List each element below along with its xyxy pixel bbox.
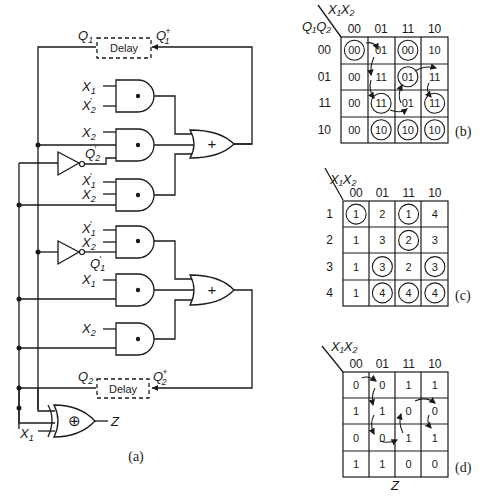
kmap-c-cell: 3 xyxy=(432,234,438,246)
and-gate-6: X2 xyxy=(19,300,194,355)
kmap-d-col-var: X₁X₂ xyxy=(330,339,357,354)
kmap-b-cell: 01 xyxy=(375,44,387,56)
kmap-b-cell: 00 xyxy=(402,44,414,56)
kmap-d-cell: 0 xyxy=(432,458,438,470)
kmap-c-cell: 2 xyxy=(379,208,385,220)
svg-text:X2′: X2′ xyxy=(81,96,96,115)
q2-label: Q2 xyxy=(78,369,93,386)
kmap-d-cell: 0 xyxy=(406,458,412,470)
inverter-q2 xyxy=(19,152,85,175)
svg-text:X1: X1 xyxy=(81,79,96,96)
kmap-c-cell: 3 xyxy=(379,234,385,246)
delay-2-label: Delay xyxy=(109,383,138,395)
diagram-canvas: Delay Q1 Q+1 X1 X2′ X2 xyxy=(0,0,491,502)
kmap-d-cell: 0 xyxy=(406,405,412,417)
svg-text:⊕: ⊕ xyxy=(68,412,81,429)
or-gate-1: + xyxy=(190,130,252,158)
q1-plus-label: Q+1 xyxy=(156,26,170,46)
kmap-b-cell: 10 xyxy=(429,44,441,56)
kmap-b-cell: 00 xyxy=(348,71,360,83)
kmap-b-row-header: 11 xyxy=(319,96,332,110)
q2-plus-label: Q+2 xyxy=(153,367,167,387)
kmap-b: X₁X₂ Q₁Q₂ 0001111000011110 0001001000110… xyxy=(302,2,472,143)
kmap-b-row-header: 10 xyxy=(318,123,332,137)
kmap-d-cell: 0 xyxy=(353,379,359,391)
kmap-c-cell: 4 xyxy=(432,287,438,299)
kmap-d-col-header: 11 xyxy=(402,357,415,371)
kmap-b-col-header: 11 xyxy=(402,22,415,36)
kmap-d-cell: 1 xyxy=(406,379,412,391)
kmap-c-col-var: X₁X₂ xyxy=(329,172,356,187)
kmap-c-cell: 3 xyxy=(379,261,385,273)
kmap-c-cell: 2 xyxy=(406,234,412,246)
svg-text:+: + xyxy=(208,135,217,152)
kmap-b-row-header: 00 xyxy=(318,43,332,57)
sequential-circuit: Delay Q1 Q+1 X1 X2′ X2 xyxy=(17,26,253,465)
kmap-c-cell: 4 xyxy=(406,287,412,299)
delay-1: Delay Q1 Q+1 xyxy=(78,26,170,58)
delay-2: Delay Q2 Q+2 xyxy=(17,367,168,398)
kmap-c-cell: 1 xyxy=(353,234,359,246)
kmap-d-z-label: Z xyxy=(390,478,400,493)
kmap-d-cell: 1 xyxy=(353,458,359,470)
kmap-c-col-header: 11 xyxy=(402,186,415,200)
kmap-d-cell: 1 xyxy=(432,432,438,444)
svg-text:X2: X2 xyxy=(81,321,96,338)
inverter-q1 xyxy=(38,241,85,264)
kmap-b-cell: 00 xyxy=(348,124,360,136)
kmap-c-cell: 1 xyxy=(353,261,359,273)
and-gate-4: X1′ X2 Q1′ xyxy=(81,219,194,279)
and-gate-5: X1 xyxy=(19,272,196,306)
kmap-d: X₁X₂ 00011110 0011110000111100 Z (d) xyxy=(322,339,472,493)
kmap-d-cell: 1 xyxy=(406,432,412,444)
kmap-b-cell: 10 xyxy=(402,124,414,136)
kmap-c-row-header: 1 xyxy=(326,207,333,221)
kmap-b-col-var: X₁X₂ xyxy=(327,2,354,17)
svg-text:+: + xyxy=(208,281,217,298)
caption-a: (a) xyxy=(128,449,144,465)
svg-text:X2: X2 xyxy=(81,125,96,142)
kmap-c-cell: 4 xyxy=(432,208,438,220)
kmap-b-cell: 10 xyxy=(429,124,441,136)
kmap-b-cell: 01 xyxy=(402,97,414,109)
and-gate-1: X1 X2′ xyxy=(81,79,194,134)
svg-text:X1: X1 xyxy=(81,272,96,289)
kmap-c-row-header: 4 xyxy=(326,286,333,300)
kmap-c-col-header: 01 xyxy=(376,186,390,200)
svg-text:Q1′: Q1′ xyxy=(90,254,105,273)
svg-text:Q2′: Q2′ xyxy=(85,144,100,163)
kmap-c-cell: 1 xyxy=(406,208,412,220)
kmap-c-row-header: 3 xyxy=(326,260,333,274)
caption-b: (b) xyxy=(455,124,472,140)
kmap-c-col-header: 10 xyxy=(428,186,442,200)
kmap-b-cell: 11 xyxy=(429,71,440,83)
kmap-b-cell: 00 xyxy=(348,44,360,56)
kmap-d-cell: 1 xyxy=(432,379,438,391)
kmap-c-cell: 1 xyxy=(353,208,359,220)
caption-d: (d) xyxy=(455,460,472,476)
delay-1-label: Delay xyxy=(110,42,139,54)
kmap-c-col-header: 00 xyxy=(349,186,363,200)
kmap-b-cell: 11 xyxy=(375,97,386,109)
kmap-c-cell: 1 xyxy=(353,287,359,299)
kmap-d-cell: 0 xyxy=(432,405,438,417)
kmap-d-col-header: 10 xyxy=(428,357,442,371)
q1-label: Q1 xyxy=(78,28,93,45)
kmap-c-cell: 4 xyxy=(379,287,385,299)
kmap-b-cell: 00 xyxy=(348,97,360,109)
kmap-d-col-header: 00 xyxy=(349,357,363,371)
kmap-d-cell: 0 xyxy=(379,379,385,391)
kmap-b-cell: 11 xyxy=(375,71,386,83)
kmap-c-cell: 3 xyxy=(432,261,438,273)
kmap-c-cell: 2 xyxy=(406,261,412,273)
kmap-c-row-header: 2 xyxy=(326,233,333,247)
kmap-d-cell: 0 xyxy=(353,432,359,444)
kmap-d-cell: 1 xyxy=(379,458,385,470)
kmap-b-cell: 10 xyxy=(375,124,387,136)
kmap-b-col-header: 00 xyxy=(348,22,362,36)
kmap-b-row-header: 01 xyxy=(318,70,332,84)
kmap-c: X₁X₂ 000111101234 1214132313231444 (c) xyxy=(325,168,471,306)
svg-text:X1: X1 xyxy=(19,426,34,443)
kmap-d-col-header: 01 xyxy=(376,357,390,371)
kmap-b-col-header: 10 xyxy=(428,22,442,36)
